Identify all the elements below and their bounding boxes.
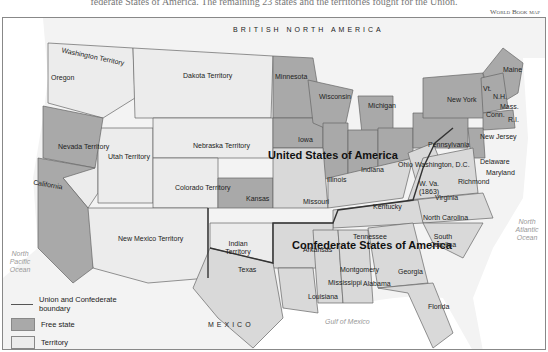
oregon-label: Oregon bbox=[51, 74, 74, 82]
wisconsin-label: Wisconsin bbox=[319, 93, 351, 101]
indiana-label: Indiana bbox=[361, 166, 384, 174]
colorado-label: Colorado Territory bbox=[175, 184, 231, 192]
utah-label: Utah Territory bbox=[108, 153, 150, 161]
maryland-label: Maryland bbox=[486, 169, 515, 177]
newyork-label: New York bbox=[447, 96, 477, 104]
nebraska-label: Nebraska Territory bbox=[193, 142, 250, 150]
richmond-label: Richmond bbox=[458, 178, 490, 186]
dc-label: Washington, D.C. bbox=[415, 161, 470, 169]
pennsylvania-label: Pennsylvania bbox=[428, 141, 470, 149]
texas-label: Texas bbox=[238, 266, 256, 274]
arkansas-label: Arkansas bbox=[303, 246, 332, 254]
mississippi-label: Mississippi bbox=[328, 279, 362, 287]
gulf-label: Gulf of Mexico bbox=[325, 318, 370, 326]
union-label: United States of America bbox=[268, 151, 398, 159]
vt-label: Vt. bbox=[483, 85, 492, 93]
illinois-label: Illinois bbox=[327, 176, 346, 184]
ohio-label: Ohio bbox=[398, 161, 413, 169]
dakota-label: Dakota Territory bbox=[183, 72, 232, 80]
minnesota-label: Minnesota bbox=[275, 73, 307, 81]
map-credit: World Book map bbox=[490, 8, 540, 16]
maine-label: Maine bbox=[503, 66, 522, 74]
map-frame: BRITISH NORTH AMERICA MEXICO North Pacif… bbox=[2, 17, 546, 350]
kansas-label: Kansas bbox=[246, 195, 269, 203]
southcarolina-label: South Carolina bbox=[428, 233, 458, 249]
louisiana-label: Louisiana bbox=[308, 293, 338, 301]
free-state-swatch bbox=[11, 318, 35, 331]
atlantic-label: North Atlantic Ocean bbox=[511, 218, 543, 242]
alabama-label: Alabama bbox=[363, 280, 391, 288]
indian-label: Indian Territory bbox=[221, 240, 255, 256]
kentucky-label: Kentucky bbox=[373, 203, 402, 211]
iowa-label: Iowa bbox=[298, 136, 313, 144]
boundary-line-swatch bbox=[11, 304, 33, 305]
mexico-label: MEXICO bbox=[208, 321, 254, 329]
montgomery-label: Montgomery bbox=[340, 266, 379, 274]
legend-territory: Territory bbox=[11, 336, 119, 349]
pacific-label: North Pacific Ocean bbox=[5, 250, 35, 274]
michigan-label: Michigan bbox=[368, 102, 396, 110]
legend-boundary: Union and Confederate boundary bbox=[11, 295, 119, 313]
map-legend: Union and Confederate boundary Free stat… bbox=[11, 295, 119, 350]
missouri-label: Missouri bbox=[303, 198, 329, 206]
georgia-label: Georgia bbox=[398, 268, 423, 276]
newjersey-label: New Jersey bbox=[480, 133, 517, 141]
territory-swatch bbox=[11, 336, 35, 349]
virginia-label: Virginia bbox=[435, 194, 458, 202]
nh-label: N.H. bbox=[493, 93, 507, 101]
conn-label: Conn. bbox=[486, 111, 505, 119]
nevada-label: Nevada Territory bbox=[58, 143, 109, 151]
map-caption: federate States of America. The remainin… bbox=[0, 0, 548, 7]
newmexico-label: New Mexico Territory bbox=[118, 235, 183, 243]
delaware-label: Delaware bbox=[480, 158, 510, 166]
florida-label: Florida bbox=[428, 303, 449, 311]
legend-free-state: Free state bbox=[11, 318, 119, 331]
british-north-america-label: BRITISH NORTH AMERICA bbox=[233, 26, 384, 34]
mass-label: Mass. bbox=[500, 103, 519, 111]
tennessee-label: Tennessee bbox=[353, 233, 387, 241]
northcarolina-label: North Carolina bbox=[423, 214, 468, 222]
ri-label: R.I. bbox=[508, 116, 519, 124]
